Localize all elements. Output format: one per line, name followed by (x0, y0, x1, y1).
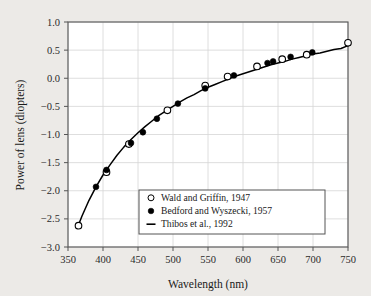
data-point-filled (104, 167, 110, 173)
data-point-filled (202, 85, 208, 91)
x-tick-label: 750 (340, 254, 356, 265)
y-tick-label: −0.5 (41, 101, 60, 112)
y-tick-label: −2.0 (41, 185, 60, 196)
data-point-open (224, 73, 231, 80)
x-tick-label: 450 (130, 254, 146, 265)
data-point-open (254, 63, 261, 70)
x-tick-label: 550 (200, 254, 216, 265)
x-tick-label: 500 (165, 254, 181, 265)
data-point-filled (140, 129, 146, 135)
data-point-open (164, 107, 171, 114)
data-point-open (75, 222, 82, 229)
legend-label: Bedford and Wyszecki, 1957 (161, 205, 272, 216)
data-point-open (279, 56, 286, 63)
data-point-filled (231, 73, 237, 79)
data-point-filled (154, 116, 160, 122)
data-point-filled (270, 58, 276, 64)
y-tick-label: −1.0 (41, 129, 60, 140)
data-point-open (345, 40, 352, 47)
legend-marker-filled-circle (148, 208, 154, 214)
y-tick-label: 0.5 (47, 45, 60, 56)
x-tick-label: 350 (60, 254, 76, 265)
legend-label: Wald and Griffin, 1947 (161, 192, 250, 203)
chromatic-aberration-chart: 350400450500550600650700750 1.00.50.0−0.… (0, 0, 371, 296)
x-tick-labels: 350400450500550600650700750 (60, 254, 356, 265)
x-tick-label: 400 (95, 254, 111, 265)
y-tick-label: −1.5 (41, 157, 60, 168)
data-point-filled (93, 184, 99, 190)
y-axis-label: Power of lens (diopters) (14, 79, 27, 190)
legend-box: Wald and Griffin, 1947Bedford and Wyszec… (139, 190, 325, 234)
x-tick-label: 650 (270, 254, 286, 265)
y-tick-label: 1.0 (47, 17, 60, 28)
data-point-filled (128, 140, 134, 146)
data-point-filled (288, 54, 294, 60)
legend-label: Thibos et al., 1992 (161, 218, 233, 229)
data-point-filled (265, 60, 271, 66)
figure-container: 350400450500550600650700750 1.00.50.0−0.… (0, 0, 371, 296)
data-point-open (303, 51, 310, 58)
y-tick-label: 0.0 (47, 73, 60, 84)
x-tick-label: 600 (235, 254, 251, 265)
x-axis-label: Wavelength (nm) (168, 278, 248, 291)
x-tick-label: 700 (305, 254, 321, 265)
data-point-filled (309, 49, 315, 55)
data-point-filled (175, 101, 181, 107)
y-tick-label: −2.5 (41, 213, 60, 224)
legend-marker-open-circle (148, 195, 154, 201)
y-tick-label: −3.0 (41, 242, 60, 253)
